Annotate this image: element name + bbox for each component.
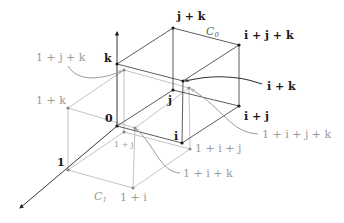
pointer-1+j+k [68, 66, 122, 78]
edge-i-to-i+j [182, 106, 239, 143]
label-1+k: 1 + k [36, 94, 66, 107]
label-i+k: i + k [267, 80, 296, 93]
edge-i-to-i+k [182, 81, 183, 143]
label-k: k [104, 52, 112, 65]
label-1+i+j+k: 1 + i + j + k [262, 128, 332, 141]
edge-1+k-to-1+i+k [68, 108, 135, 128]
edge-1+i-to-1+i+j [133, 149, 190, 188]
vertex-i-dot [180, 141, 183, 144]
label-i+j: i + j [244, 110, 269, 123]
label-1: 1 [57, 156, 65, 169]
edge-1+j-to-1 [68, 132, 124, 170]
edge-i+k-to-i+j+k [183, 45, 239, 81]
vertex-i+j-dot [237, 104, 240, 107]
vertex-j+k-dot [171, 26, 174, 29]
vertex-i+j+k-dot [237, 43, 240, 46]
edge-1-to-1+i [68, 170, 133, 188]
vertex-k-dot [115, 62, 118, 65]
edge-1+i+j-to-1+j [124, 132, 190, 149]
label-1+i+j: 1 + i + j [195, 142, 241, 155]
vertex-j-dot [171, 88, 174, 91]
quaternion-cube-diagram: k 0 j i j + k i + j + k i + k i + j 1 + … [0, 0, 344, 223]
vertex-1+i-dot [131, 186, 134, 189]
label-1+i: 1 + i [120, 191, 147, 204]
edge-1+i-to-1+i+k [133, 128, 135, 188]
label-j: j [167, 94, 172, 107]
edge-1+j+k-to-1+k [68, 70, 124, 108]
label-1+j: 1 + j [114, 140, 133, 149]
label-1+j+k: 1 + j + k [36, 51, 86, 64]
label-c1: C1 [94, 190, 107, 204]
vertex-1+i+j+k-dot [187, 86, 190, 89]
vertex-1+j-dot [122, 130, 125, 133]
label-0: 0 [105, 112, 113, 125]
edge-j+k-to-k [117, 28, 173, 64]
edge-1+i+j+k-to-1+j+k [124, 70, 189, 88]
vertex-1+j+k-dot [122, 68, 125, 71]
label-1+i+k: 1 + i + k [183, 167, 233, 180]
vertex-0-dot [115, 124, 118, 127]
vertex-1-dot [66, 168, 69, 171]
edge-1+i+j-to-1+i+j+k [189, 88, 190, 149]
cube-c0 [117, 28, 239, 143]
label-i+j+k: i + j + k [244, 29, 294, 42]
pointer-i+k [185, 77, 262, 84]
edge-1+i+k-to-1+i+j+k [135, 88, 189, 128]
vertex-1+i+j-dot [188, 147, 191, 150]
label-c0: C0 [206, 25, 219, 39]
vertex-1+k-dot [66, 106, 69, 109]
label-j+k: j + k [176, 10, 206, 23]
vertex-i+k-dot [181, 79, 184, 82]
label-i: i [174, 130, 178, 143]
